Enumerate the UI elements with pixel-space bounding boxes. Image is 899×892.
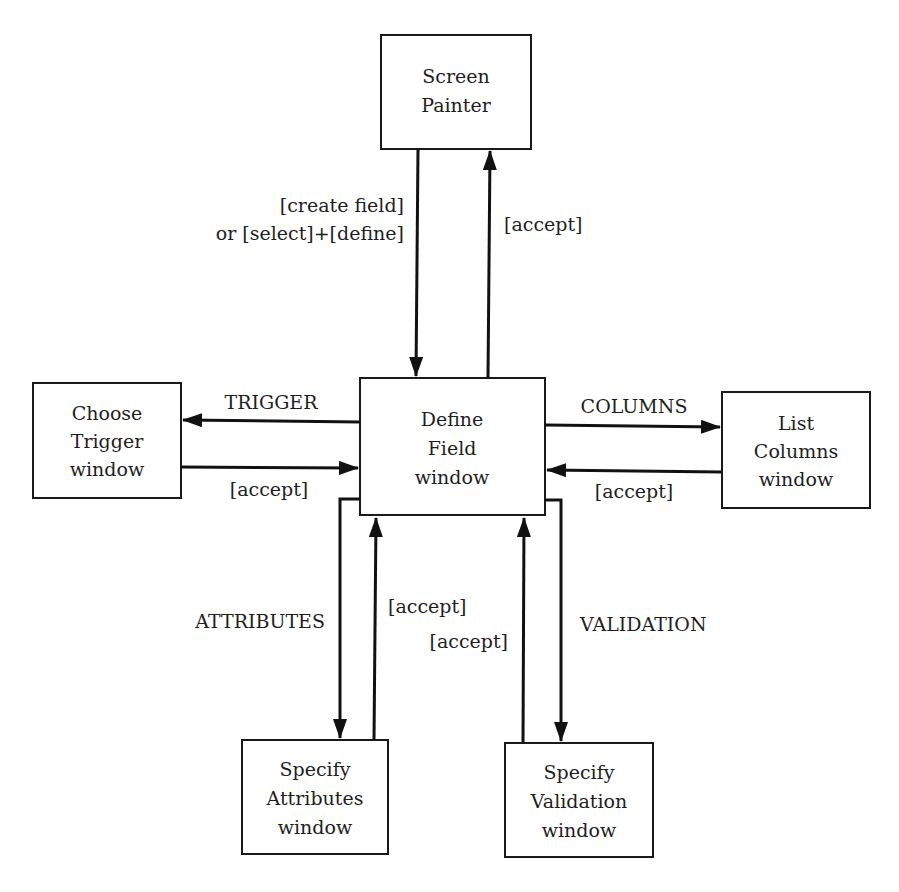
node-label-line: window (542, 819, 617, 841)
edge-arrow (523, 518, 524, 743)
edge-label: [accept] (430, 630, 508, 652)
edge-arrow (181, 467, 358, 468)
node-define-field-window: Define Field window (360, 378, 545, 515)
edge-label-line: or [select]+[define] (216, 222, 404, 244)
edge-validation: VALIDATION (545, 500, 707, 741)
node-label-line: Specify (280, 758, 351, 780)
edge-label: [accept] (230, 478, 308, 500)
edge-arrow (547, 470, 722, 472)
edge-accept-from-attributes: [accept] (374, 518, 466, 740)
edge-label: COLUMNS (581, 395, 688, 417)
state-diagram: Screen Painter Define Field window Choos… (0, 0, 899, 892)
edge-arrow (374, 518, 376, 740)
edge-accept-from-trigger: [accept] (181, 467, 358, 500)
node-specify-validation-window: Specify Validation window (505, 743, 653, 857)
node-label-line: Field (428, 437, 477, 459)
node-label-line: window (415, 466, 490, 488)
edge-accept-to-painter: [accept] (488, 151, 582, 378)
edge-label: VALIDATION (579, 613, 707, 635)
node-label-line: Define (421, 408, 484, 430)
node-label-line: Validation (530, 790, 627, 812)
edge-columns: COLUMNS (545, 395, 720, 427)
node-list-columns-window: List Columns window (722, 392, 870, 508)
node-label-line: Choose (72, 402, 143, 424)
node-label-line: Screen (422, 65, 489, 87)
node-label-line: List (778, 412, 814, 434)
edge-label-line: [create field] (280, 194, 404, 216)
edge-attributes: ATTRIBUTES (194, 499, 360, 738)
node-label-line: window (70, 458, 145, 480)
node-label-line: Painter (421, 94, 491, 116)
edge-label: ATTRIBUTES (194, 610, 325, 632)
edge-create-field: [create field] or [select]+[define] (216, 149, 418, 376)
edge-arrow (545, 500, 561, 741)
edge-label: TRIGGER (224, 391, 318, 413)
edge-arrow (340, 499, 360, 738)
edge-label: [accept] (388, 595, 466, 617)
edge-trigger: TRIGGER (183, 391, 360, 422)
node-label-line: window (759, 468, 834, 490)
node-label-line: Specify (544, 761, 615, 783)
edge-accept-from-columns: [accept] (547, 470, 722, 502)
node-label-line: window (278, 816, 353, 838)
edge-arrow (183, 420, 360, 422)
edge-label: [accept] (595, 480, 673, 502)
node-screen-painter: Screen Painter (381, 35, 531, 149)
edge-accept-from-validation: [accept] (430, 518, 524, 743)
edge-arrow (416, 149, 418, 376)
edge-label: [accept] (504, 213, 582, 235)
edge-arrow (545, 425, 720, 427)
node-specify-attributes-window: Specify Attributes window (242, 740, 388, 854)
node-label-line: Attributes (266, 787, 364, 809)
node-label-line: Columns (754, 440, 838, 462)
node-label-line: Trigger (71, 430, 144, 452)
edge-arrow (488, 151, 490, 378)
node-choose-trigger-window: Choose Trigger window (33, 383, 181, 498)
node-box (381, 35, 531, 149)
